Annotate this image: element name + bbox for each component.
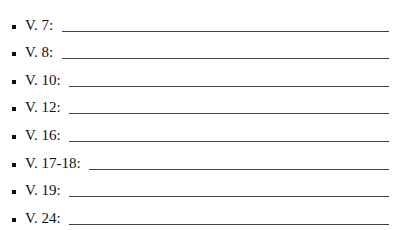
bullet-icon xyxy=(12,218,16,222)
list-item: V. 19: xyxy=(0,174,401,202)
bullet-icon xyxy=(12,163,16,167)
bullet-icon xyxy=(12,135,16,139)
bullet-icon xyxy=(12,52,16,56)
answer-blank-line[interactable] xyxy=(69,224,389,225)
bullet-icon xyxy=(12,190,16,194)
answer-blank-line[interactable] xyxy=(69,141,389,142)
list-item: V. 16: xyxy=(0,118,401,146)
answer-blank-line[interactable] xyxy=(62,58,389,59)
verse-label: V. 10: xyxy=(25,73,61,88)
verse-label: V. 12: xyxy=(25,100,61,115)
list-item: V. 24: xyxy=(0,201,401,229)
bullet-icon xyxy=(12,107,16,111)
bullet-icon xyxy=(12,25,16,29)
verse-label: V. 16: xyxy=(25,128,61,143)
list-item: V. 12: xyxy=(0,91,401,119)
list-item: V. 7: xyxy=(0,8,401,36)
answer-blank-line[interactable] xyxy=(69,196,389,197)
verse-label: V. 24: xyxy=(25,211,61,226)
list-item: V. 10: xyxy=(0,63,401,91)
list-item: V. 8: xyxy=(0,36,401,64)
answer-blank-line[interactable] xyxy=(69,113,389,114)
verse-list: V. 7: V. 8: V. 10: V. 12: V. 16: V. 17-1… xyxy=(0,8,401,229)
answer-blank-line[interactable] xyxy=(69,86,389,87)
list-item: V. 17-18: xyxy=(0,146,401,174)
answer-blank-line[interactable] xyxy=(89,169,389,170)
verse-label: V. 8: xyxy=(25,45,53,60)
answer-blank-line[interactable] xyxy=(62,31,389,32)
verse-label: V. 7: xyxy=(25,18,53,33)
verse-label: V. 19: xyxy=(25,183,61,198)
verse-label: V. 17-18: xyxy=(25,156,81,171)
bullet-icon xyxy=(12,80,16,84)
